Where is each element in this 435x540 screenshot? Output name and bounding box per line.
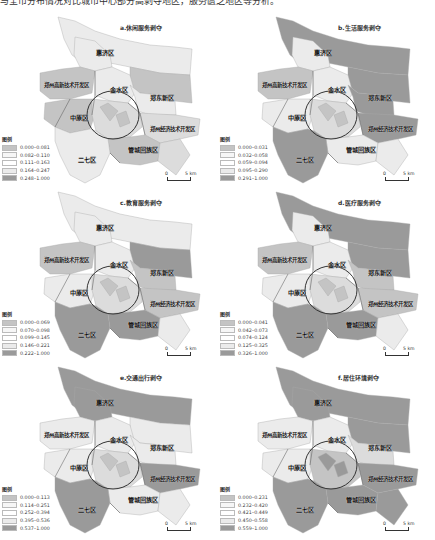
district-label-erqi: 二七区	[78, 505, 96, 514]
legend-item: 0.099–0.145	[2, 334, 50, 342]
district-label-zhongyuan: 中原区	[70, 113, 88, 122]
map-legend: 图例 0.000–0.1130.114–0.2510.252–0.3940.39…	[2, 485, 50, 532]
map-panel-d: d.医疗服务剥夺 惠济区 郑州高新技术开发区 金水区 郑东新区 中原区 郑州经济…	[218, 190, 435, 365]
legend-label: 0.000–0.031	[238, 145, 268, 150]
legend-label: 0.248–1.000	[20, 176, 50, 181]
legend-swatch	[2, 510, 17, 516]
legend-swatch	[2, 495, 17, 501]
map-legend: 图例 0.000–0.0690.070–0.0980.099–0.1450.14…	[2, 310, 50, 357]
district-label-erqi: 二七区	[296, 330, 314, 339]
map-panel-b: b.生活服务剥夺 惠济区 郑州高新技术开发区 金水区 郑东新区 中原区 郑州经济…	[218, 15, 435, 190]
legend-swatch	[2, 518, 17, 524]
legend-label: 0.059–0.094	[238, 160, 268, 165]
legend-label: 0.125–0.325	[238, 343, 268, 348]
panel-title: d.医疗服务剥夺	[338, 198, 381, 207]
district-label-guancheng: 管城回族区	[128, 145, 158, 154]
legend-swatch	[220, 152, 235, 158]
legend-label: 0.146–0.221	[20, 343, 50, 348]
region-center	[92, 449, 142, 489]
figure-caption: 与全市分布情况对比城市中心部分高剥夺地区，服务匮乏地区等分析。	[0, 0, 435, 7]
legend-label: 0.232–0.420	[238, 503, 268, 508]
legend-swatch	[2, 152, 17, 158]
legend-item: 0.291–1.000	[220, 174, 268, 182]
legend-swatch	[220, 502, 235, 508]
legend-item: 0.232–0.420	[220, 502, 268, 510]
district-label-jingkai: 郑州经济技术开发区	[150, 125, 195, 133]
district-label-gaoxin: 郑州高新技术开发区	[44, 256, 89, 264]
district-label-gaoxin: 郑州高新技术开发区	[262, 256, 307, 264]
legend-label: 0.095–0.290	[238, 168, 268, 173]
scale-bar: 0 5 km	[165, 521, 168, 526]
scale-zero: 0	[383, 346, 386, 351]
legend-title: 图例	[220, 485, 268, 492]
legend-label: 0.000–0.231	[238, 495, 268, 500]
scale-bar-line	[167, 527, 191, 531]
district-label-jingkai: 郑州经济技术开发区	[368, 300, 413, 308]
district-label-jingkai: 郑州经济技术开发区	[150, 300, 195, 308]
legend-title: 图例	[2, 135, 50, 142]
scale-bar: 0 5 km	[165, 346, 168, 351]
legend-item: 0.252–0.394	[2, 509, 50, 517]
legend-label: 0.000–0.041	[238, 320, 268, 325]
district-label-guancheng: 管城回族区	[128, 320, 158, 329]
scale-bar: 0 5 km	[383, 346, 386, 351]
district-label-jinshui: 金水区	[110, 435, 128, 444]
scale-unit: 5 km	[185, 171, 197, 176]
legend-item: 0.000–0.081	[2, 144, 50, 152]
district-label-jinshui: 金水区	[110, 85, 128, 94]
district-label-guancheng: 管城回族区	[128, 495, 158, 504]
district-label-erqi: 二七区	[296, 505, 314, 514]
map-legend: 图例 0.000–0.2310.232–0.4200.421–0.4490.45…	[220, 485, 268, 532]
district-label-jingkai: 郑州经济技术开发区	[368, 475, 413, 483]
scale-bar-line	[385, 527, 409, 531]
district-label-gaoxin: 郑州高新技术开发区	[262, 431, 307, 439]
scale-unit: 5 km	[185, 521, 197, 526]
panel-title: e.交通出行剥夺	[120, 373, 162, 382]
legend-item: 0.074–0.124	[220, 334, 268, 342]
legend-label: 0.326–1.000	[238, 351, 268, 356]
legend-item: 0.114–0.251	[2, 502, 50, 510]
legend-swatch	[220, 495, 235, 501]
district-label-huiji: 惠济区	[314, 223, 332, 232]
district-label-zhongyuan: 中原区	[70, 288, 88, 297]
legend-swatch	[220, 175, 235, 181]
legend-label: 0.000–0.069	[20, 320, 50, 325]
district-label-zhengdong: 郑东新区	[368, 443, 392, 452]
legend-item: 0.000–0.041	[220, 319, 268, 327]
legend-item: 0.248–1.000	[2, 174, 50, 182]
legend-label: 0.537–1.000	[20, 526, 50, 531]
district-label-zhongyuan: 中原区	[70, 463, 88, 472]
scale-zero: 0	[165, 171, 168, 176]
region-southeast	[158, 314, 190, 350]
scale-bar-line	[167, 177, 191, 181]
scale-zero: 0	[383, 171, 386, 176]
region-center	[310, 99, 360, 139]
legend-swatch	[220, 320, 235, 326]
legend-swatch	[220, 335, 235, 341]
legend-item: 0.111–0.163	[2, 159, 50, 167]
legend-item: 0.000–0.069	[2, 319, 50, 327]
district-label-zhengdong: 郑东新区	[150, 443, 174, 452]
map-panel-f: f.居住环境剥夺 惠济区 郑州高新技术开发区 金水区 郑东新区 中原区 郑州经济…	[218, 365, 435, 540]
district-label-huiji: 惠济区	[314, 48, 332, 57]
map-legend: 图例 0.000–0.0810.082–0.1100.111–0.1630.16…	[2, 135, 50, 182]
region-southeast	[376, 139, 408, 175]
scale-zero: 0	[165, 346, 168, 351]
region-center	[92, 274, 142, 314]
legend-item: 0.537–1.000	[2, 524, 50, 532]
legend-swatch	[220, 510, 235, 516]
district-label-huiji: 惠济区	[314, 398, 332, 407]
district-label-huiji: 惠济区	[96, 398, 114, 407]
legend-item: 0.095–0.290	[220, 167, 268, 175]
region-center	[92, 99, 142, 139]
region-southeast	[158, 489, 190, 525]
district-label-jinshui: 金水区	[328, 260, 346, 269]
scale-bar-line	[167, 352, 191, 356]
region-southeast	[158, 139, 190, 175]
legend-swatch	[220, 525, 235, 531]
region-center	[310, 274, 360, 314]
district-label-zhongyuan: 中原区	[288, 288, 306, 297]
scale-bar-line	[385, 177, 409, 181]
legend-swatch	[2, 160, 17, 166]
legend-swatch	[2, 343, 17, 349]
